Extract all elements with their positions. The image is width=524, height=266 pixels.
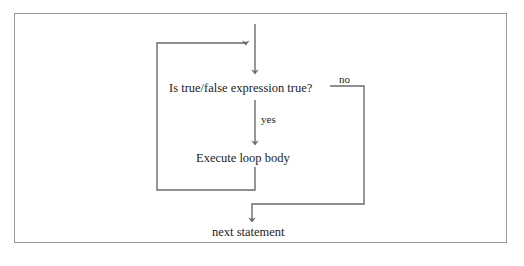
next-statement-node-label: next statement (212, 226, 285, 239)
edge-label-yes: yes (261, 114, 276, 125)
loop-body-node-label: Execute loop body (196, 152, 290, 165)
edge-body-to-loopback (157, 43, 255, 190)
edge-label-no: no (339, 74, 350, 85)
diagram-canvas: Is true/false expression true? Execute l… (0, 0, 524, 266)
decision-node-label: Is true/false expression true? (169, 82, 312, 95)
